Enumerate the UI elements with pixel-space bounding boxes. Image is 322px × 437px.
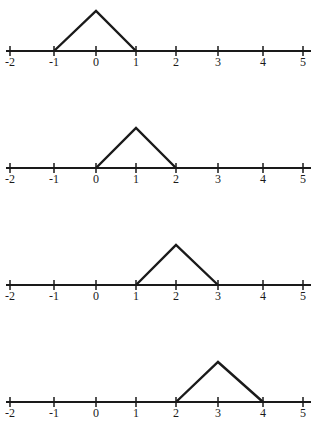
x-tick-label: 5 — [300, 172, 306, 186]
x-tick-label: 0 — [93, 406, 99, 420]
hat-function-line — [54, 11, 136, 51]
panel-3: -2-1012345 — [5, 245, 311, 303]
hat-function-line — [96, 128, 176, 168]
x-tick-label: 1 — [133, 289, 139, 303]
x-tick-label: -2 — [5, 55, 15, 69]
x-tick-label: 5 — [300, 55, 306, 69]
hat-function-line — [136, 245, 218, 285]
x-tick-label: 4 — [260, 289, 266, 303]
x-tick-label: 0 — [93, 289, 99, 303]
hat-functions-figure: -2-1012345-2-1012345-2-1012345-2-1012345 — [0, 0, 322, 437]
x-tick-label: 0 — [93, 55, 99, 69]
x-tick-label: 1 — [133, 55, 139, 69]
hat-function-line — [176, 362, 263, 402]
x-tick-label: 1 — [133, 406, 139, 420]
panel-1: -2-1012345 — [5, 11, 311, 69]
x-tick-label: -1 — [49, 172, 59, 186]
x-tick-label: 3 — [215, 289, 221, 303]
x-tick-label: 3 — [215, 406, 221, 420]
x-tick-label: -1 — [49, 406, 59, 420]
x-tick-label: 5 — [300, 289, 306, 303]
x-tick-label: 2 — [173, 172, 179, 186]
x-tick-label: 3 — [215, 172, 221, 186]
x-tick-label: -1 — [49, 289, 59, 303]
panel-4: -2-1012345 — [5, 362, 311, 420]
x-tick-label: 4 — [260, 172, 266, 186]
x-tick-label: -1 — [49, 55, 59, 69]
x-tick-label: -2 — [5, 289, 15, 303]
x-tick-label: -2 — [5, 172, 15, 186]
x-tick-label: 5 — [300, 406, 306, 420]
x-tick-label: 2 — [173, 406, 179, 420]
x-tick-label: 2 — [173, 289, 179, 303]
x-tick-label: 2 — [173, 55, 179, 69]
x-tick-label: 4 — [260, 55, 266, 69]
x-tick-label: -2 — [5, 406, 15, 420]
x-tick-label: 1 — [133, 172, 139, 186]
panel-2: -2-1012345 — [5, 128, 311, 186]
x-tick-label: 0 — [93, 172, 99, 186]
x-tick-label: 3 — [215, 55, 221, 69]
x-tick-label: 4 — [260, 406, 266, 420]
